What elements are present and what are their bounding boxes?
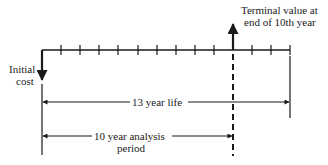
terminal-value-label-line1: Terminal value at: [241, 4, 318, 16]
terminal-value-label-line2: end of 10th year: [244, 16, 316, 28]
analysis-period-label-line1: 10 year analysis: [94, 130, 165, 142]
initial-cost-label-line1: Initial: [9, 63, 35, 75]
initial-cost-label-line2: cost: [16, 75, 34, 87]
analysis-period-label-line2: period: [117, 142, 145, 154]
life-span-label: 13 year life: [132, 96, 182, 108]
